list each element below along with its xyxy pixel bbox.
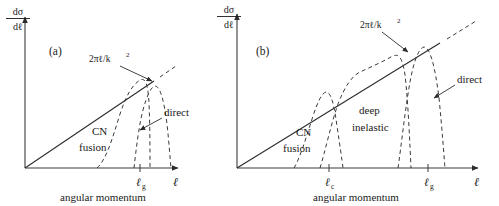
- panel-b-x-axis-caption: angular momentum: [313, 191, 399, 203]
- panel-a-label: (a): [49, 45, 62, 58]
- panel-a-tick-label-ell-g: ℓ g: [136, 176, 146, 191]
- panel-a-x-axis-variable: ℓ: [173, 175, 178, 189]
- panel-b-region-cn-fusion: CN fusion: [283, 126, 311, 154]
- panel-a-direct-arrow: [140, 118, 162, 130]
- panel-a-direct-curve: [134, 86, 171, 168]
- panel-b-tick-label-ell-g: ℓ g: [424, 176, 434, 191]
- panel-b-formula-text: 2πℓ/k: [360, 20, 382, 30]
- panel-b-formula-exponent: 2: [397, 17, 401, 25]
- panel-a-direct-label: direct: [164, 106, 189, 118]
- figure-svg: dσ dℓ (a) 2πℓ/k 2 CN fusion direct: [0, 0, 499, 206]
- panel-b: dσ dℓ (b) 2πℓ/k 2 CN fusion deep inelast…: [217, 4, 482, 203]
- panel-b-tick-c-symbol: ℓ: [325, 176, 330, 188]
- panel-a-x-axis-caption: angular momentum: [60, 191, 146, 203]
- panel-a-line-extension: [160, 66, 176, 77]
- panel-b-region-deep-line2: inelastic: [352, 121, 389, 133]
- panel-b-tick-c-subscript: c: [331, 182, 335, 191]
- panel-b-sharp-cutoff-line: [237, 43, 440, 168]
- panel-b-formula-arrow: [382, 32, 408, 52]
- panel-b-annotation-direct: direct: [434, 73, 482, 98]
- panel-a-formula-arrow: [120, 66, 152, 81]
- panel-b-y-axis-numerator: dσ: [224, 4, 235, 15]
- panel-a-sharp-cutoff-line: [25, 81, 154, 168]
- panel-a-tick-symbol: ℓ: [136, 176, 141, 188]
- panel-a-tick-subscript: g: [142, 182, 146, 191]
- panel-b-region-deep-inelastic: deep inelastic: [352, 104, 389, 133]
- panel-b-direct-label: direct: [457, 73, 482, 85]
- panel-a-formula-annotation: 2πℓ/k 2: [89, 51, 152, 81]
- panel-b-x-axis-variable: ℓ: [474, 175, 479, 189]
- panel-b-y-axis-denominator: dℓ: [224, 19, 234, 30]
- panel-b-tick-g-subscript: g: [430, 182, 434, 191]
- panel-a-cn-fusion-curve: [97, 79, 150, 168]
- figure-root: dσ dℓ (a) 2πℓ/k 2 CN fusion direct: [0, 0, 499, 206]
- panel-b-line-extension: [447, 21, 476, 39]
- panel-a-region-cn-line2: fusion: [79, 141, 107, 153]
- panel-a-y-axis-denominator: dℓ: [13, 21, 23, 32]
- panel-b-region-deep-line1: deep: [359, 104, 380, 116]
- panel-a-region-cn-line1: CN: [92, 125, 107, 137]
- panel-a-formula-text: 2πℓ/k: [89, 54, 111, 64]
- panel-a-formula-exponent: 2: [126, 51, 130, 59]
- panel-a-y-axis-numerator: dσ: [13, 6, 24, 17]
- panel-a: dσ dℓ (a) 2πℓ/k 2 CN fusion direct: [6, 6, 189, 203]
- panel-b-region-cn-line2: fusion: [283, 142, 311, 154]
- panel-a-annotation-direct: direct: [140, 106, 189, 130]
- panel-b-tick-label-ell-c: ℓ c: [325, 176, 335, 191]
- panel-b-formula-annotation: 2πℓ/k 2: [360, 17, 408, 52]
- panel-a-y-axis-label: dσ dℓ: [6, 6, 30, 32]
- panel-b-tick-g-symbol: ℓ: [424, 176, 429, 188]
- panel-b-region-cn-line1: CN: [296, 126, 311, 138]
- panel-b-label: (b): [256, 45, 270, 58]
